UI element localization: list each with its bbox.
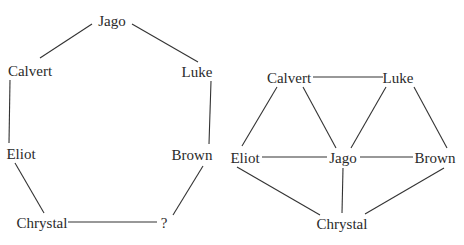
edge-jago-calvert: [40, 24, 92, 58]
node-calvert: Calvert: [267, 70, 312, 86]
node-chrystal: Chrystal: [317, 216, 368, 232]
node-eliot: Eliot: [6, 146, 36, 162]
node-jago: Jago: [329, 150, 357, 166]
network-graph: CalvertLukeEliotJagoBrownChrystal: [230, 70, 455, 232]
edge-eliot-chrystal: [237, 167, 320, 215]
edge-calvert-eliot: [9, 80, 10, 143]
edge-brown-chrystal: [365, 168, 444, 214]
edge-eliot-chrystal: [15, 163, 44, 213]
edge-jago-chrystal: [342, 168, 343, 213]
node-eliot: Eliot: [230, 150, 260, 166]
edge-brown-unknown: [173, 166, 203, 215]
node-unknown: ?: [161, 215, 168, 231]
edge-luke-brown: [209, 81, 211, 144]
edge-calvert-jago: [303, 87, 336, 148]
node-chrystal: Chrystal: [17, 215, 68, 231]
node-brown: Brown: [415, 150, 456, 166]
edge-luke-brown: [414, 87, 447, 148]
node-calvert: Calvert: [8, 63, 53, 79]
edge-calvert-eliot: [242, 87, 277, 146]
edge-jago-luke: [132, 24, 198, 62]
node-luke: Luke: [182, 64, 213, 80]
diagram-canvas: JagoCalvertLukeEliotBrownChrystal?Calver…: [0, 0, 464, 245]
node-jago: Jago: [98, 13, 126, 29]
graph-drawing: JagoCalvertLukeEliotBrownChrystal?Calver…: [0, 0, 464, 245]
node-luke: Luke: [383, 70, 414, 86]
cycle-graph: JagoCalvertLukeEliotBrownChrystal?: [6, 13, 212, 231]
edge-luke-jago: [351, 87, 386, 148]
node-brown: Brown: [172, 147, 213, 163]
